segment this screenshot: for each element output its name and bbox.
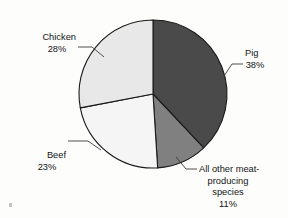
slice-label-line: Chicken bbox=[42, 32, 76, 42]
pie-chart-figure: Pig38%All other meat-producingspecies11%… bbox=[0, 0, 288, 218]
slice-label-line: Pig bbox=[245, 48, 258, 58]
slice-label-line: producing bbox=[208, 176, 249, 186]
slice-label-line: All other meat- bbox=[199, 164, 259, 174]
leader-line-beef bbox=[68, 141, 101, 150]
pie-chart-svg: Pig38%All other meat-producingspecies11%… bbox=[0, 0, 288, 218]
slice-label-pig: Pig38% bbox=[245, 48, 264, 70]
slice-label-line: species bbox=[212, 187, 244, 197]
slice-label-beef: Beef23% bbox=[38, 150, 67, 172]
pie-slices bbox=[79, 20, 227, 168]
slice-label-line: 38% bbox=[246, 60, 265, 70]
slice-label-chicken: Chicken28% bbox=[42, 32, 76, 54]
slice-label-line: Beef bbox=[47, 150, 67, 160]
leader-line-pig bbox=[224, 64, 243, 76]
slice-label-line: 28% bbox=[48, 44, 67, 54]
slice-label-line: 11% bbox=[219, 199, 237, 209]
pie-slice-chicken[interactable] bbox=[79, 20, 153, 108]
slice-label-line: 23% bbox=[38, 162, 57, 172]
scan-speck-artifact bbox=[9, 203, 12, 207]
slice-label-all-other-meat-producing-species: All other meat-producingspecies11% bbox=[199, 164, 259, 209]
